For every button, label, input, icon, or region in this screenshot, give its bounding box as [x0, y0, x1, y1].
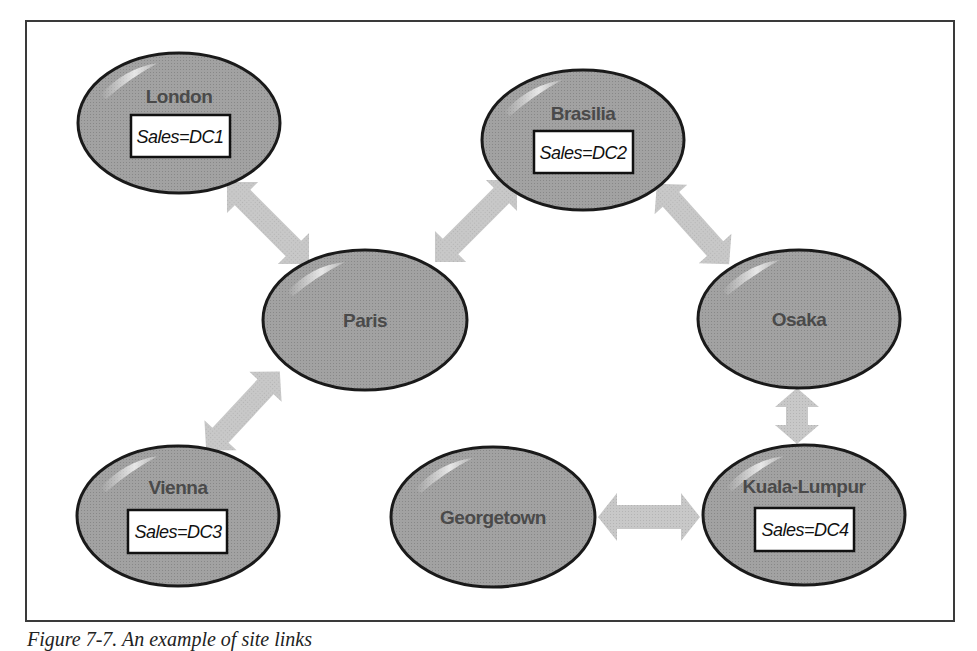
node-label: London	[146, 86, 213, 107]
sales-label: Sales=DC2	[539, 143, 627, 163]
node-label: Osaka	[772, 309, 827, 330]
site-node-georgetown[interactable]: Georgetown	[391, 447, 595, 587]
site-node-osaka[interactable]: Osaka	[698, 250, 900, 388]
link-georgetown-kuala-lumpur	[598, 493, 700, 541]
sales-label: Sales=DC1	[136, 127, 223, 147]
node-label: Kuala-Lumpur	[743, 476, 867, 497]
site-node-paris[interactable]: Paris	[263, 250, 467, 390]
node-label: Georgetown	[440, 507, 546, 528]
link-osaka-kuala-lumpur	[775, 388, 819, 444]
site-node-vienna[interactable]: Vienna Sales=DC3	[77, 446, 279, 586]
figure-caption: Figure 7-7. An example of site links	[27, 628, 312, 651]
site-node-brasilia[interactable]: Brasilia Sales=DC2	[482, 70, 684, 210]
node-label: Paris	[343, 310, 387, 331]
sales-label: Sales=DC3	[134, 522, 222, 542]
node-label: Brasilia	[551, 103, 617, 124]
site-node-kuala-lumpur[interactable]: Kuala-Lumpur Sales=DC4	[703, 445, 905, 585]
site-node-london[interactable]: London Sales=DC1	[78, 53, 280, 193]
node-label: Vienna	[149, 477, 209, 498]
sales-label: Sales=DC4	[761, 520, 849, 540]
